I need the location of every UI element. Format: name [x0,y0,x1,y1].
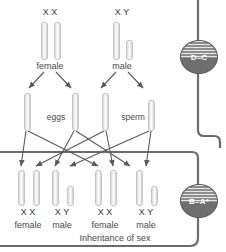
arrow-egg1-to-offspring1 [21,131,26,166]
chromosome-father-x [113,22,120,60]
chromosome-mother-x1 [41,22,48,60]
chromosome-offspring3-x2 [110,170,117,206]
chromosome-egg-x2 [72,93,79,131]
chromosome-mother-x2 [54,22,61,60]
chromosome-offspring4-x [136,170,143,206]
arrow-spermY-to-offspring4 [146,131,151,166]
chromosome-offspring1-x2 [33,170,40,206]
arrow-egg2-to-offspring4 [76,131,130,166]
chromosome-offspring1-x1 [18,170,25,206]
chromosome-egg-x1 [24,93,31,131]
gamete-sperm-label: sperm [121,113,145,122]
offspring-1-alleles: X X [21,208,36,217]
figure-caption: Inheritance of sex [79,234,150,243]
arrow-spermY-to-offspring2 [70,131,149,166]
parent-father-label: male [112,62,132,71]
arrow-female-to-egg-1 [29,72,44,88]
gamete-eggs-label: eggs [47,113,65,122]
parent-mother-alleles: X X [43,8,58,17]
offspring-3-label: female [91,221,118,230]
arrow-female-to-egg-2 [56,72,71,88]
chromosome-offspring2-y [67,186,74,206]
arrow-spermX-to-offspring1 [36,131,104,166]
offspring-3-alleles: X X [98,208,113,217]
arrow-egg1-to-offspring3 [28,131,98,166]
offspring-4-label: male [136,221,156,230]
offspring-1-label: female [14,221,41,230]
inheritance-of-sex-figure: D–C B–A* [0,0,226,252]
offspring-2-label: male [52,221,72,230]
parent-father-alleles: X Y [115,8,129,17]
parent-mother-label: female [36,62,63,71]
chromosome-offspring2-x [52,170,59,206]
offspring-2-alleles: X Y [55,208,69,217]
chromosome-sperm-y [148,100,155,131]
offspring-4-alleles: X Y [139,208,153,217]
arrow-male-to-sperm-2 [128,72,143,88]
chromosome-offspring4-y [151,186,158,206]
chromosome-father-y [126,40,133,60]
arrow-male-to-sperm-1 [101,72,116,88]
chromosome-offspring3-x1 [95,170,102,206]
chromosome-sperm-x [102,93,109,131]
